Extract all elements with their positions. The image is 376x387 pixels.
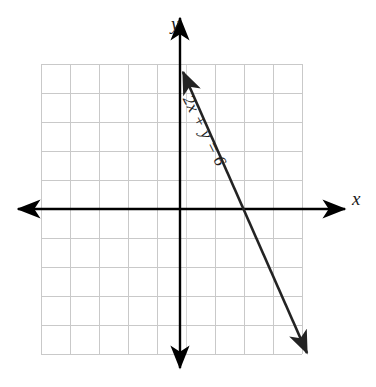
y-axis-label: y: [171, 13, 179, 35]
graph-canvas: [0, 0, 376, 387]
x-axis-label: x: [352, 188, 360, 210]
coordinate-plane-figure: · · · ·: [0, 0, 376, 387]
